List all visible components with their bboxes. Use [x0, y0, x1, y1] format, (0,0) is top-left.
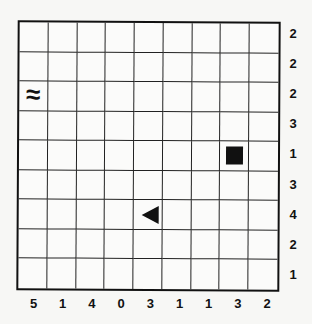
grid-cell[interactable]	[192, 53, 221, 83]
grid-cell[interactable]	[135, 23, 164, 53]
grid-cell[interactable]	[76, 141, 105, 171]
grid-cell[interactable]	[134, 171, 163, 201]
grid-cell[interactable]	[77, 23, 106, 53]
grid-cell[interactable]	[163, 53, 192, 83]
grid-cell[interactable]	[47, 200, 76, 230]
grid-cell[interactable]	[77, 52, 106, 82]
puzzle-grid: ≈	[16, 20, 280, 291]
grid-cell[interactable]	[249, 260, 278, 290]
row-clue: 1	[285, 267, 301, 282]
grid-cell[interactable]	[249, 112, 278, 142]
grid-cell[interactable]	[134, 52, 163, 82]
grid-cell[interactable]	[106, 52, 135, 82]
column-clue: 3	[223, 296, 252, 311]
grid-cell[interactable]	[221, 112, 250, 142]
grid-cell[interactable]	[76, 259, 105, 289]
grid-cell[interactable]	[163, 112, 192, 142]
grid-cell[interactable]	[48, 111, 77, 141]
grid-cell[interactable]	[249, 142, 278, 172]
row-clue: 2	[285, 237, 301, 252]
grid-cell[interactable]	[162, 260, 191, 290]
grid-cell[interactable]	[47, 229, 76, 259]
grid-cell[interactable]	[77, 82, 106, 112]
grid-cell[interactable]	[163, 23, 192, 53]
grid-cell[interactable]	[48, 170, 77, 200]
column-clue: 1	[165, 296, 194, 311]
grid-cell[interactable]	[76, 200, 105, 230]
grid-cell[interactable]	[105, 200, 134, 230]
grid-cell[interactable]	[250, 24, 279, 54]
grid-cell[interactable]	[134, 82, 163, 112]
grid-cell[interactable]	[105, 259, 134, 289]
grid-cell[interactable]	[191, 260, 220, 290]
grid-cell[interactable]	[134, 141, 163, 171]
grid-cell[interactable]	[192, 23, 221, 53]
grid-cell[interactable]	[191, 230, 220, 260]
grid-cell[interactable]	[48, 82, 77, 112]
grid-cell[interactable]	[133, 259, 162, 289]
grid-cell[interactable]	[106, 82, 135, 112]
grid-cell[interactable]	[220, 201, 249, 231]
grid-cell[interactable]	[48, 52, 77, 82]
grid-cell[interactable]	[221, 53, 250, 83]
grid-cell[interactable]	[19, 200, 48, 230]
water-icon: ≈	[26, 82, 40, 108]
grid-cell[interactable]	[19, 111, 48, 141]
grid-cell[interactable]	[105, 230, 134, 260]
grid-cell[interactable]	[192, 141, 221, 171]
ship-square-icon	[226, 147, 243, 165]
grid-cell[interactable]	[192, 82, 221, 112]
grid-cell[interactable]	[163, 141, 192, 171]
row-clue: 1	[285, 146, 301, 161]
grid-cell[interactable]	[162, 230, 191, 260]
grid-cell[interactable]	[250, 53, 279, 83]
grid-cell[interactable]	[18, 259, 47, 289]
row-clue: 3	[285, 116, 301, 131]
grid-cell[interactable]	[249, 83, 278, 113]
column-clue: 4	[77, 296, 106, 311]
column-clue: 1	[48, 296, 77, 311]
grid-cell[interactable]	[105, 171, 134, 201]
grid-cell[interactable]	[220, 142, 249, 172]
grid-cell[interactable]	[76, 170, 105, 200]
grid-cell[interactable]	[77, 111, 106, 141]
grid-cell[interactable]	[220, 171, 249, 201]
grid-cell[interactable]	[48, 22, 77, 52]
column-clue: 3	[136, 296, 165, 311]
ship-end-left-icon	[142, 206, 159, 224]
column-clue: 1	[194, 296, 223, 311]
grid-cell[interactable]	[19, 141, 48, 171]
column-clue: 2	[253, 296, 282, 311]
row-clue: 3	[285, 177, 301, 192]
grid-cell[interactable]	[163, 171, 192, 201]
grid-cell[interactable]	[106, 23, 135, 53]
grid-cell[interactable]	[162, 200, 191, 230]
grid-cell[interactable]	[220, 230, 249, 260]
row-clue: 4	[285, 207, 301, 222]
grid-cell[interactable]	[249, 230, 278, 260]
grid-cell[interactable]	[221, 82, 250, 112]
row-clue: 2	[285, 56, 301, 71]
grid-cell[interactable]	[249, 201, 278, 231]
grid-cell[interactable]	[19, 52, 48, 82]
grid-cell[interactable]	[105, 111, 134, 141]
grid-cell[interactable]	[134, 200, 163, 230]
grid-cell[interactable]	[192, 112, 221, 142]
grid-cell[interactable]	[221, 23, 250, 53]
grid-cell[interactable]: ≈	[19, 81, 48, 111]
grid-cell[interactable]	[19, 170, 48, 200]
grid-cell[interactable]	[105, 141, 134, 171]
grid-cell[interactable]	[76, 229, 105, 259]
column-clue: 5	[19, 296, 48, 311]
grid-cell[interactable]	[20, 22, 49, 52]
grid-cell[interactable]	[47, 259, 76, 289]
grid-cell[interactable]	[163, 82, 192, 112]
grid-cell[interactable]	[220, 260, 249, 290]
grid-cell[interactable]	[48, 141, 77, 171]
grid-cell[interactable]	[249, 171, 278, 201]
grid-cell[interactable]	[134, 230, 163, 260]
grid-cell[interactable]	[191, 201, 220, 231]
grid-cell[interactable]	[18, 229, 47, 259]
grid-cell[interactable]	[191, 171, 220, 201]
grid-cell[interactable]	[134, 112, 163, 142]
